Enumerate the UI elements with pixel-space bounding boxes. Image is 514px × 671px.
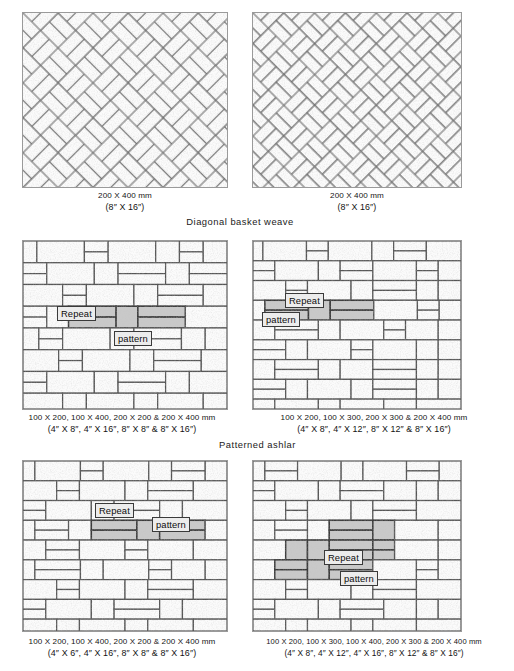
caption-imperial: (4″ X 8″, 4″ X 12″, 4″ X 16″, 8″ X 12″ &… (236, 648, 512, 660)
caption-imperial: (8″ X 16″) (22, 202, 228, 214)
repeat-label-ashlar-c: Repeat (95, 503, 134, 518)
caption-diagonal-herringbone: 200 X 400 mm (8″ X 16″) (22, 190, 228, 213)
caption-patterned-ashlar-c: 100 X 200, 100 X 400, 200 X 200 & 200 X … (6, 636, 238, 659)
diagonal-herringbone-drawing (23, 13, 227, 187)
caption-imperial: (4″ X 8″, 4″ X 16″, 8″ X 8″ & 8″ X 16″) (6, 424, 238, 436)
caption-imperial: (4″ X 6″, 4″ X 16″, 8″ X 8″ & 8″ X 16″) (6, 648, 238, 660)
repeat-label-ashlar-b: Repeat (285, 293, 324, 308)
caption-imperial: (4″ X 8″, 4″ X 12″, 8″ X 12″ & 8″ X 16″) (238, 424, 510, 436)
pattern-label-ashlar-a: pattern (114, 331, 152, 346)
caption-patterned-ashlar-d: 100 X 200, 100 X 300, 100 X 400, 200 X 3… (236, 636, 512, 659)
pattern-label-ashlar-d: pattern (340, 571, 378, 586)
patterned-ashlar-d-drawing (253, 461, 461, 631)
caption-metric: 200 X 400 mm (22, 190, 228, 202)
caption-patterned-ashlar-a: 100 X 200, 100 X 400, 200 X 200 & 200 X … (6, 412, 238, 435)
section-label-diagonal-basket-weave: Diagonal basket weave (155, 216, 325, 227)
panel-diagonal-herringbone (22, 12, 228, 188)
caption-imperial: (8″ X 16″) (252, 202, 462, 214)
repeat-label-ashlar-a: Repeat (57, 306, 96, 321)
figure-page: 200 X 400 mm (8″ X 16″) 200 X 400 mm (8″… (0, 0, 514, 671)
panel-patterned-ashlar-a (22, 240, 228, 410)
patterned-ashlar-a-drawing (23, 241, 227, 409)
patterned-ashlar-c-drawing (23, 461, 227, 631)
section-label-patterned-ashlar: Patterned ashlar (180, 439, 335, 450)
caption-metric: 200 X 400 mm (252, 190, 462, 202)
panel-patterned-ashlar-c (22, 460, 228, 632)
pattern-label-ashlar-c: pattern (152, 517, 190, 532)
repeat-label-ashlar-d: Repeat (324, 550, 363, 565)
caption-metric: 100 X 200, 100 X 300, 100 X 400, 200 X 3… (236, 636, 512, 648)
diagonal-basket-weave-drawing (253, 13, 461, 187)
panel-diagonal-basket-weave (252, 12, 462, 188)
caption-diagonal-basket-weave: 200 X 400 mm (8″ X 16″) (252, 190, 462, 213)
caption-metric: 100 X 200, 100 X 400, 200 X 200 & 200 X … (6, 636, 238, 648)
panel-patterned-ashlar-d (252, 460, 462, 632)
caption-patterned-ashlar-b: 100 X 200, 100 X 300, 200 X 300 & 200 X … (238, 412, 510, 435)
pattern-label-ashlar-b: pattern (262, 312, 300, 327)
caption-metric: 100 X 200, 100 X 300, 200 X 300 & 200 X … (238, 412, 510, 424)
caption-metric: 100 X 200, 100 X 400, 200 X 200 & 200 X … (6, 412, 238, 424)
